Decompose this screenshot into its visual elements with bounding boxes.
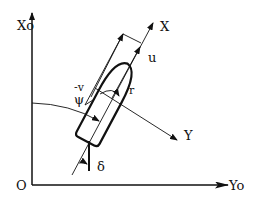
heading-angle-label: ψ <box>74 92 84 107</box>
rudder-angle-label: δ <box>97 159 105 174</box>
ship-maneuvering-diagram: Xo Yo O ψ X Y u -v r δ <box>0 0 257 202</box>
surge-velocity-vector <box>112 47 140 98</box>
surge-velocity-label: u <box>148 50 156 65</box>
ship-y-axis-label: Y <box>183 128 193 143</box>
earth-x-axis-label: Xo <box>17 18 34 33</box>
rudder-angle-arc <box>79 163 87 164</box>
origin-label: O <box>16 178 27 193</box>
ship-y-axis <box>95 88 177 140</box>
sway-velocity-label: -v <box>74 81 85 94</box>
ship-hull <box>75 58 139 148</box>
yaw-rate-label: r <box>129 84 135 97</box>
earth-y-axis-label: Yo <box>228 178 244 193</box>
heading-angle-arc <box>32 103 99 121</box>
velocity-side <box>123 34 141 43</box>
ship-x-axis-label: X <box>160 19 170 34</box>
